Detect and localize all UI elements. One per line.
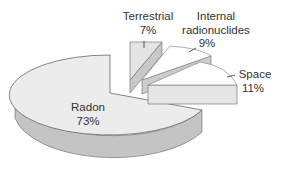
label-terrestrial-pct: 7%: [140, 24, 157, 36]
pie-chart: Terrestrial 7% Internal radionuclides 9%…: [0, 0, 285, 179]
label-internal-2: radionuclides: [182, 24, 250, 36]
slice-space-side: [148, 85, 237, 104]
label-terrestrial: Terrestrial: [123, 10, 173, 22]
label-space: Space: [239, 68, 272, 80]
label-space-pct: 11%: [242, 82, 264, 94]
label-radon-pct: 73%: [76, 115, 99, 127]
label-internal-pct: 9%: [199, 37, 216, 49]
label-internal: Internal: [197, 10, 235, 22]
label-radon: Radon: [71, 101, 105, 113]
